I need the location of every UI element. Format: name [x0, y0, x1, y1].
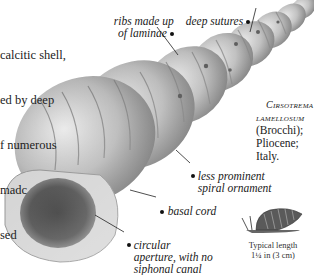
description-text: calcitic shell, ed by deep f numerous ma…	[0, 18, 66, 258]
description-line: sed	[0, 228, 66, 243]
snail-size-icon	[238, 200, 308, 238]
annotation-dot	[170, 32, 174, 36]
annotation-aperture: circular aperture, with no siphonal cana…	[121, 227, 213, 275]
annotation-dot	[246, 20, 250, 24]
species-info: Cirsotrema lamellosum (Brocchi); Pliocen…	[256, 98, 314, 163]
annotation-basal-cord: basal cord	[154, 193, 216, 217]
size-caption-label: Typical length	[236, 240, 310, 250]
description-line: calcitic shell,	[0, 48, 66, 63]
species-epithet: lamellosum	[256, 111, 314, 124]
description-line: madc	[0, 183, 66, 198]
annotation-dot	[191, 174, 195, 178]
annotation-sutures: deep sutures	[180, 3, 250, 27]
species-locality: Italy.	[256, 150, 314, 163]
annotation-spiral-ornament: less prominent spiral ornament	[185, 158, 272, 194]
annotation-dot	[160, 210, 164, 214]
species-genus: Cirsotrema	[266, 98, 314, 111]
size-caption: Typical length 1¼ in (3 cm)	[236, 240, 310, 260]
species-authority-age: (Brocchi); Pliocene;	[256, 124, 314, 150]
size-caption-value: 1¼ in (3 cm)	[236, 250, 310, 260]
annotation-dot	[127, 243, 131, 247]
description-line: ed by deep	[0, 93, 66, 108]
annotation-ribs: ribs made up of laminae	[108, 3, 174, 39]
description-line: f numerous	[0, 138, 66, 153]
